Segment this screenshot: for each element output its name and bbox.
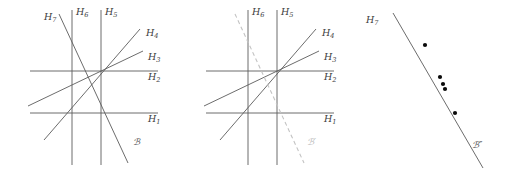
label-curve-C: ℬ bbox=[133, 137, 141, 147]
marked-point bbox=[438, 75, 442, 79]
marked-point bbox=[423, 43, 427, 47]
label-H7: H7 bbox=[43, 11, 57, 24]
panel-arrangement-with-H7: H1 H2 H3 H4 H5 H6 H7 ℬ bbox=[0, 0, 176, 177]
panel-right-canvas: H7 ℬ″ bbox=[352, 0, 528, 177]
line-H7 bbox=[393, 13, 483, 168]
line-H7 bbox=[59, 14, 128, 163]
label-H7: H7 bbox=[365, 14, 379, 27]
panel-line-with-marked-points: H7 ℬ″ bbox=[352, 0, 528, 177]
label-H6: H6 bbox=[251, 6, 265, 19]
label-H1: H1 bbox=[323, 113, 337, 126]
marked-point bbox=[453, 111, 457, 115]
label-H6: H6 bbox=[75, 6, 89, 19]
marked-point bbox=[441, 82, 445, 86]
line-H3 bbox=[28, 51, 143, 106]
label-H4: H4 bbox=[321, 27, 335, 40]
panel-arrangement-with-C-prime: H1 H2 H3 H4 H5 H6 ℬ′ bbox=[176, 0, 352, 177]
panel-middle-canvas: H1 H2 H3 H4 H5 H6 ℬ′ bbox=[176, 0, 352, 177]
label-H5: H5 bbox=[104, 6, 118, 19]
label-H4: H4 bbox=[145, 27, 159, 40]
line-C-prime-dashed bbox=[235, 14, 304, 163]
label-H5: H5 bbox=[280, 6, 294, 19]
line-H3 bbox=[204, 51, 319, 106]
label-H1: H1 bbox=[147, 113, 161, 126]
label-curve-C-double-prime: ℬ″ bbox=[472, 140, 483, 150]
label-curve-C-prime: ℬ′ bbox=[307, 137, 316, 147]
label-H3: H3 bbox=[323, 51, 337, 64]
label-H3: H3 bbox=[147, 51, 161, 64]
label-H2: H2 bbox=[323, 71, 337, 84]
line-arrangement-figure: H1 H2 H3 H4 H5 H6 H7 ℬ bbox=[0, 0, 528, 177]
label-H2: H2 bbox=[147, 71, 161, 84]
panel-left-canvas: H1 H2 H3 H4 H5 H6 H7 ℬ bbox=[0, 0, 176, 177]
marked-point bbox=[443, 87, 447, 91]
